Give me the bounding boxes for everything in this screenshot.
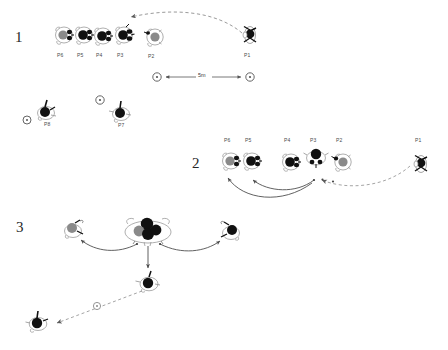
- player-figure-p1-panel2: [410, 151, 432, 181]
- player-label-p6-panel1: P6: [57, 53, 64, 58]
- panel-2-movement-arcs: [228, 178, 315, 197]
- panel-number-3: 3: [16, 220, 24, 235]
- player-figure-p5-panel2: [240, 148, 264, 178]
- player-label-p4-panel2: P4: [284, 138, 291, 143]
- player-label-p3-panel1: P3: [117, 53, 124, 58]
- measurement-label: 5m: [196, 73, 208, 79]
- player-label-p5-panel1: P5: [77, 53, 84, 58]
- player-label-p2-panel2: P2: [336, 138, 343, 143]
- player-cluster-panel3: [122, 214, 174, 256]
- player-label-p4-panel1: P4: [96, 53, 103, 58]
- player-label-p2-panel1: P2: [148, 54, 155, 59]
- player-figure-right-panel3: [216, 217, 244, 249]
- player-figure-below-panel3: [135, 268, 163, 300]
- player-label-p8-panel1: P8: [44, 122, 51, 127]
- player-figure-p1-panel1: [239, 22, 261, 52]
- player-figure-p3-panel1: [112, 22, 136, 52]
- player-label-p7-panel1: P7: [118, 123, 125, 128]
- player-label-p6-panel2: P6: [224, 138, 231, 143]
- player-label-p5-panel2: P5: [245, 138, 252, 143]
- player-label-p1-panel1: P1: [244, 53, 251, 58]
- player-figure-far-panel3: [25, 308, 53, 340]
- player-figure-p2-panel1: [143, 24, 167, 54]
- player-label-p1-panel2: P1: [415, 138, 422, 143]
- panel-number-1: 1: [15, 30, 23, 45]
- player-figure-p3-panel2: [303, 143, 329, 175]
- player-figure-p2-panel2: [331, 149, 355, 179]
- player-figure-left-panel3: [60, 215, 88, 247]
- panel-number-2: 2: [192, 156, 200, 171]
- player-figure-p4-panel2: [279, 149, 303, 179]
- diagram-canvas: 1 2 3 5m P6 P5: [0, 0, 448, 350]
- panel-3-ball-path: [57, 291, 142, 323]
